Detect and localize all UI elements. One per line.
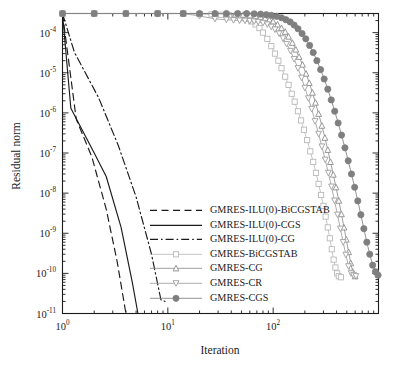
y-tick-label: 10-6: [16, 106, 56, 119]
legend-entry: GMRES-ILU(0)-CGS: [148, 218, 330, 233]
legend-swatch-none: [148, 218, 204, 233]
legend-swatch-circle: [148, 291, 204, 306]
legend-label: GMRES-CGS: [204, 291, 268, 306]
legend-swatch-triangle-down: [148, 276, 204, 291]
legend-label: GMRES-ILU(0)-CG: [204, 232, 295, 247]
legend-entry: GMRES-BiCGSTAB: [148, 247, 330, 262]
legend-label: GMRES-CG: [204, 261, 263, 276]
y-tick-label: 10-7: [16, 146, 56, 159]
y-axis-label: Residual norm: [10, 96, 22, 216]
legend-swatch-triangle-up: [148, 261, 204, 276]
y-tick-label: 10-9: [16, 226, 56, 239]
legend-label: GMRES-CR: [204, 276, 262, 291]
y-tick-label: 10-5: [16, 66, 56, 79]
residual-norm-convergence-chart: 10-410-510-610-710-810-910-1010-11100101…: [0, 0, 397, 368]
series-gmres-ilu-0-bicgstab: [63, 14, 126, 314]
legend-label: GMRES-ILU(0)-BiCGSTAB: [204, 203, 330, 218]
y-tick-label: 10-4: [16, 26, 56, 39]
legend-swatch-none: [148, 232, 204, 247]
legend-entry: GMRES-CG: [148, 261, 330, 276]
chart-legend: GMRES-ILU(0)-BiCGSTABGMRES-ILU(0)-CGSGMR…: [148, 203, 330, 305]
legend-entry: GMRES-CGS: [148, 291, 330, 306]
legend-entry: GMRES-ILU(0)-CG: [148, 232, 330, 247]
y-tick-label: 10-11: [16, 307, 56, 320]
x-tick-label: 100: [43, 319, 83, 332]
x-axis-label: Iteration: [62, 344, 378, 356]
plot-area: [0, 0, 397, 368]
y-tick-label: 10-8: [16, 186, 56, 199]
legend-entry: GMRES-ILU(0)-BiCGSTAB: [148, 203, 330, 218]
y-tick-label: 10-10: [16, 266, 56, 279]
legend-swatch-none: [148, 203, 204, 218]
legend-swatch-square: [148, 247, 204, 262]
legend-label: GMRES-BiCGSTAB: [204, 247, 298, 262]
series-gmres-ilu-0-cgs: [63, 14, 138, 314]
x-tick-label: 101: [148, 319, 188, 332]
legend-label: GMRES-ILU(0)-CGS: [204, 218, 301, 233]
legend-entry: GMRES-CR: [148, 276, 330, 291]
x-tick-label: 102: [253, 319, 293, 332]
